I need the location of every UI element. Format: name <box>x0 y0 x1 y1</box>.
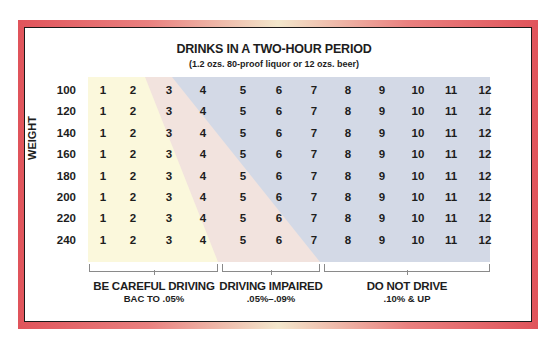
drinks-cell: 5 <box>231 212 255 224</box>
drinks-cell: 7 <box>302 170 326 182</box>
weight-row-label: 240 <box>44 234 76 246</box>
weight-row-label: 200 <box>44 191 76 203</box>
legend-range: .05%–.09% <box>216 293 326 304</box>
drinks-cell: 5 <box>231 127 255 139</box>
drinks-cell: 10 <box>406 191 430 203</box>
drinks-cell: 9 <box>370 170 394 182</box>
drinks-cell: 5 <box>231 234 255 246</box>
drinks-cell: 7 <box>302 127 326 139</box>
drinks-cell: 2 <box>121 191 145 203</box>
drinks-cell: 11 <box>439 170 463 182</box>
drinks-cell: 12 <box>473 127 497 139</box>
drinks-cell: 2 <box>121 84 145 96</box>
drinks-cell: 1 <box>91 127 115 139</box>
drinks-cell: 10 <box>406 234 430 246</box>
drinks-cell: 8 <box>336 212 360 224</box>
drinks-cell: 8 <box>336 84 360 96</box>
drinks-cell: 10 <box>406 105 430 117</box>
drinks-cell: 6 <box>267 105 291 117</box>
drinks-cell: 5 <box>231 105 255 117</box>
drinks-cell: 6 <box>267 148 291 160</box>
drinks-cell: 3 <box>157 148 181 160</box>
drinks-cell: 2 <box>121 234 145 246</box>
drinks-cell: 3 <box>157 84 181 96</box>
drinks-cell: 10 <box>406 170 430 182</box>
chart-subtitle: (1.2 ozs. 80-proof liquor or 12 ozs. bee… <box>0 59 548 69</box>
drinks-cell: 12 <box>473 170 497 182</box>
drinks-cell: 1 <box>91 191 115 203</box>
weight-row-label: 120 <box>44 105 76 117</box>
drinks-cell: 11 <box>439 127 463 139</box>
drinks-cell: 5 <box>231 191 255 203</box>
drinks-cell: 1 <box>91 234 115 246</box>
drinks-cell: 8 <box>336 148 360 160</box>
weight-row-label: 180 <box>44 170 76 182</box>
drinks-cell: 8 <box>336 105 360 117</box>
legend-title: BE CAREFUL DRIVING <box>89 280 219 292</box>
drinks-cell: 12 <box>473 234 497 246</box>
drinks-cell: 12 <box>473 84 497 96</box>
drinks-cell: 2 <box>121 212 145 224</box>
drinks-cell: 12 <box>473 212 497 224</box>
drinks-cell: 9 <box>370 212 394 224</box>
drinks-cell: 6 <box>267 170 291 182</box>
drinks-cell: 7 <box>302 84 326 96</box>
drinks-cell: 2 <box>121 170 145 182</box>
legend-title: DO NOT DRIVE <box>324 280 490 292</box>
drinks-cell: 10 <box>406 212 430 224</box>
drinks-cell: 5 <box>231 84 255 96</box>
drinks-cell: 1 <box>91 212 115 224</box>
drinks-cell: 2 <box>121 105 145 117</box>
drinks-cell: 11 <box>439 234 463 246</box>
bracket-tick <box>271 270 272 275</box>
drinks-cell: 4 <box>191 127 215 139</box>
legend-be-careful: BE CAREFUL DRIVING BAC TO .05% <box>89 280 219 304</box>
bracket-tick <box>154 270 155 275</box>
drinks-cell: 6 <box>267 127 291 139</box>
weight-row-label: 100 <box>44 84 76 96</box>
drinks-cell: 6 <box>267 234 291 246</box>
drinks-cell: 6 <box>267 191 291 203</box>
drinks-cell: 8 <box>336 234 360 246</box>
drinks-cell: 5 <box>231 148 255 160</box>
drinks-cell: 9 <box>370 148 394 160</box>
weight-row-label: 220 <box>44 212 76 224</box>
drinks-cell: 12 <box>473 148 497 160</box>
drinks-cell: 4 <box>191 212 215 224</box>
drinks-cell: 3 <box>157 234 181 246</box>
chart-title: DRINKS IN A TWO-HOUR PERIOD <box>0 42 548 56</box>
legend-driving-impaired: DRIVING IMPAIRED .05%–.09% <box>216 280 326 304</box>
drinks-cell: 4 <box>191 84 215 96</box>
drinks-cell: 9 <box>370 191 394 203</box>
drinks-cell: 2 <box>121 127 145 139</box>
drinks-cell: 4 <box>191 105 215 117</box>
legend-range: .10% & UP <box>324 293 490 304</box>
drinks-cell: 6 <box>267 84 291 96</box>
drinks-cell: 8 <box>336 127 360 139</box>
drinks-cell: 1 <box>91 148 115 160</box>
drinks-cell: 3 <box>157 170 181 182</box>
drinks-cell: 8 <box>336 170 360 182</box>
drinks-cell: 9 <box>370 234 394 246</box>
drinks-cell: 7 <box>302 212 326 224</box>
drinks-cell: 7 <box>302 148 326 160</box>
drinks-cell: 4 <box>191 191 215 203</box>
drinks-cell: 12 <box>473 191 497 203</box>
drinks-cell: 9 <box>370 127 394 139</box>
bracket-be-careful <box>89 264 218 272</box>
drinks-cell: 9 <box>370 84 394 96</box>
drinks-cell: 7 <box>302 105 326 117</box>
legend-do-not-drive: DO NOT DRIVE .10% & UP <box>324 280 490 304</box>
drinks-cell: 5 <box>231 170 255 182</box>
legend-title: DRIVING IMPAIRED <box>216 280 326 292</box>
drinks-cell: 7 <box>302 234 326 246</box>
drinks-cell: 10 <box>406 84 430 96</box>
drinks-cell: 1 <box>91 105 115 117</box>
legend-range: BAC TO .05% <box>89 293 219 304</box>
weight-row-label: 140 <box>44 127 76 139</box>
drinks-cell: 7 <box>302 191 326 203</box>
weight-row-label: 160 <box>44 148 76 160</box>
drinks-cell: 3 <box>157 105 181 117</box>
drinks-cell: 4 <box>191 170 215 182</box>
bracket-tick <box>407 270 408 275</box>
